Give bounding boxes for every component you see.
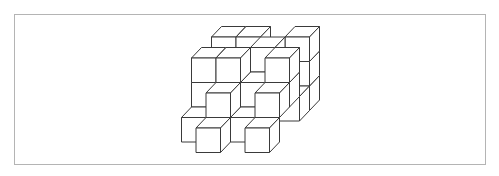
cube-front-face: [255, 93, 280, 118]
cube: [216, 48, 251, 83]
cube: [206, 83, 241, 118]
cube-front-face: [216, 58, 241, 83]
cube-front-face: [192, 58, 217, 83]
cube: [265, 48, 300, 83]
cube-front-face: [245, 128, 270, 153]
cube-stack-diagram: [0, 0, 499, 176]
cube: [255, 83, 290, 118]
cube-front-face: [196, 128, 221, 153]
cube-front-face: [265, 58, 290, 83]
cube: [196, 118, 231, 153]
cube: [245, 118, 280, 153]
cube-front-face: [206, 93, 231, 118]
